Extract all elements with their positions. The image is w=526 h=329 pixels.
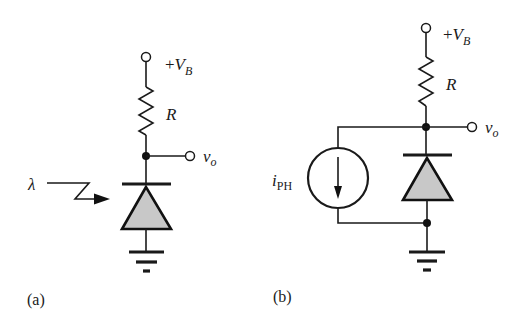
panel-b: +VB R vo iPH (b)	[272, 24, 499, 307]
caption-a: (a)	[27, 291, 45, 309]
photodiode-icon	[122, 187, 171, 229]
output-terminal-b	[468, 123, 477, 132]
output-label-a: vo	[203, 147, 217, 169]
supply-label-b: +VB	[443, 25, 471, 48]
resistor-label-b: R	[445, 75, 457, 94]
supply-terminal-b	[422, 24, 431, 33]
wire-source-bottom	[338, 208, 426, 223]
source-label: iPH	[272, 171, 292, 193]
light-label: λ	[27, 175, 35, 194]
light-arrowhead-icon	[94, 194, 110, 205]
light-ray-icon	[47, 183, 96, 199]
diode-icon-b	[403, 158, 452, 200]
resistor-label-a: R	[165, 105, 177, 124]
circuit-figure: λ +VB R vo (a)	[0, 0, 526, 329]
supply-label-a: +VB	[165, 55, 193, 78]
junction-dot-bottom-b	[423, 219, 431, 227]
output-label-b: vo	[485, 118, 499, 140]
caption-b: (b)	[273, 288, 292, 306]
resistor-a	[139, 87, 153, 135]
wire-source-top	[338, 127, 426, 148]
panel-a: λ +VB R vo (a)	[27, 53, 217, 310]
resistor-b	[419, 57, 433, 106]
output-terminal-a	[186, 152, 195, 161]
supply-terminal-a	[142, 53, 151, 62]
